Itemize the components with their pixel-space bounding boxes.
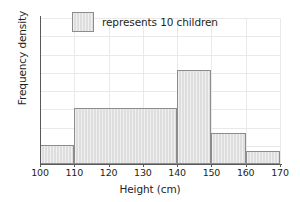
- legend-swatch-icon: [72, 12, 94, 32]
- legend-label: represents 10 children: [102, 16, 218, 28]
- x-axis-title: Height (cm): [0, 183, 300, 195]
- x-tick-mark: [211, 164, 212, 167]
- legend: represents 10 children: [72, 12, 218, 32]
- x-tick-mark: [109, 164, 110, 167]
- x-tick-mark: [246, 164, 247, 167]
- histogram-chart: 0246810121416 100110120130140150160170 F…: [0, 0, 300, 202]
- x-tick-mark: [40, 164, 41, 167]
- x-tick-mark: [143, 164, 144, 167]
- y-axis-title: Frequency density: [16, 0, 28, 128]
- x-tick-mark: [280, 164, 281, 167]
- x-tick-mark: [177, 164, 178, 167]
- x-tick-label: 170: [260, 168, 300, 178]
- x-tick-mark: [74, 164, 75, 167]
